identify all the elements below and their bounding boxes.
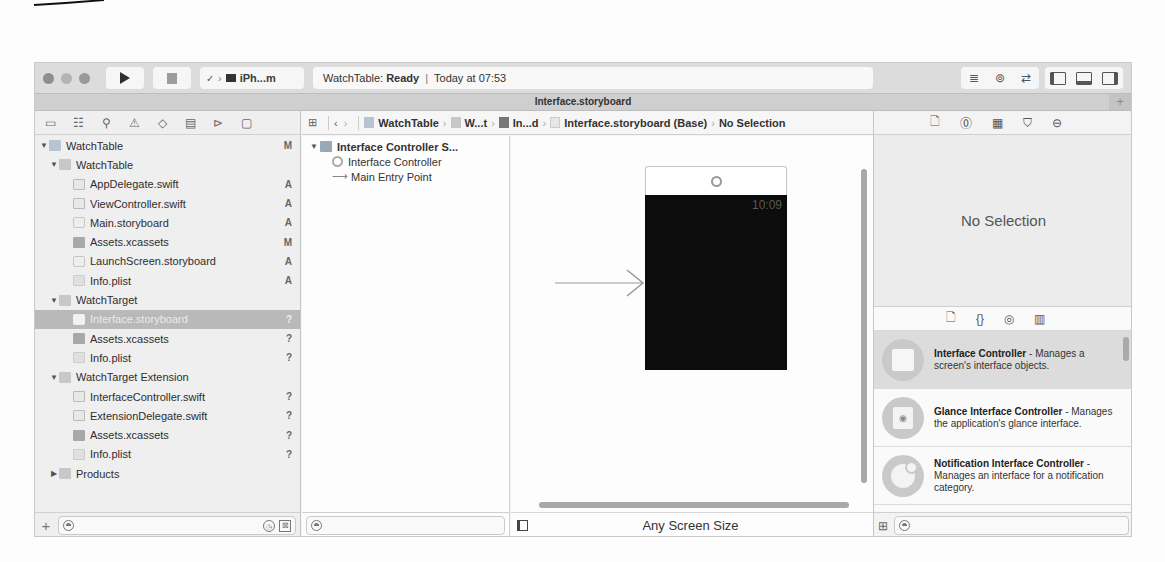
warning-icon[interactable]: ⚠: [127, 116, 141, 130]
minimize-window-button[interactable]: [61, 73, 72, 84]
version-editor-icon[interactable]: ⇄: [1017, 71, 1035, 85]
story-file-icon: [73, 314, 85, 325]
tree-item[interactable]: InterfaceController.swift?: [35, 387, 300, 406]
library-item-notification-interface-controller[interactable]: Notification Interface Controller - Mana…: [874, 447, 1132, 505]
tree-item[interactable]: ExtensionDelegate.swift?: [35, 406, 300, 425]
tree-item[interactable]: Main.storyboardA: [35, 213, 300, 232]
tree-item[interactable]: Assets.xcassetsM: [35, 232, 300, 251]
breakpoint-icon[interactable]: ⊳: [211, 116, 225, 130]
connections-icon[interactable]: ⊖: [1052, 116, 1062, 130]
file-template-icon[interactable]: 🗋: [946, 308, 956, 329]
folder-file-icon: [59, 372, 71, 383]
disclosure-triangle-icon[interactable]: ▼: [310, 142, 320, 151]
zoom-window-button[interactable]: [79, 73, 90, 84]
scm-status-badge: A: [285, 275, 292, 286]
run-button[interactable]: [106, 67, 144, 89]
page-pen-stroke: [34, 0, 104, 6]
entry-point-arrow[interactable]: [555, 267, 647, 299]
storyboard-canvas[interactable]: 10:09 Any Screen Size: [511, 136, 873, 537]
add-tab-button[interactable]: +: [1109, 94, 1131, 110]
back-button[interactable]: ‹: [334, 117, 338, 129]
library-item-glance-interface-controller[interactable]: ◉ Glance Interface Controller - Manages …: [874, 389, 1132, 447]
tree-item[interactable]: ▼WatchTarget Extension: [35, 368, 300, 387]
tree-item[interactable]: ViewController.swiftA: [35, 194, 300, 213]
tree-item[interactable]: Info.plist?: [35, 348, 300, 367]
test-icon[interactable]: ◇: [155, 116, 169, 130]
breadcrumb-project[interactable]: WatchTable: [364, 117, 439, 129]
file-icon[interactable]: 🗋: [930, 112, 940, 133]
related-items-icon[interactable]: ⊞: [308, 116, 317, 129]
outline-item-main-entry-point[interactable]: ⟶ Main Entry Point: [302, 169, 509, 184]
navigator-filter-input[interactable]: ◷ ⊠: [58, 516, 296, 535]
assets-file-icon: [73, 333, 85, 344]
code-snippet-icon[interactable]: {}: [976, 312, 984, 326]
search-icon[interactable]: ⚲: [99, 116, 113, 130]
add-file-button[interactable]: +: [39, 517, 53, 534]
disclosure-triangle-icon[interactable]: ▼: [39, 141, 49, 150]
vertical-scrollbar[interactable]: [861, 169, 867, 483]
chevron-right-icon: ›: [711, 117, 715, 129]
scheme-selector[interactable]: ✓ › iPh...m: [200, 67, 304, 89]
status-separator: |: [425, 72, 428, 84]
source-control-filter-icon[interactable]: ⊠: [279, 520, 291, 532]
tree-item[interactable]: LaunchScreen.storyboardA: [35, 252, 300, 271]
tab-interface-storyboard[interactable]: Interface.storyboard: [535, 96, 632, 107]
disclosure-triangle-icon[interactable]: ▼: [49, 373, 59, 382]
tree-item[interactable]: AppDelegate.swiftA: [35, 175, 300, 194]
tree-item-label: ViewController.swift: [90, 198, 186, 210]
swift-file-icon: [73, 410, 85, 421]
breadcrumb-selection[interactable]: No Selection: [719, 117, 786, 129]
library-item-interface-controller[interactable]: Interface Controller - Manages a screen'…: [874, 331, 1132, 389]
tree-item[interactable]: ▼WatchTableM: [35, 136, 300, 155]
folder-icon[interactable]: ▭: [43, 116, 57, 130]
tree-item[interactable]: Interface.storyboard?: [35, 310, 300, 329]
identity-icon[interactable]: ▦: [992, 116, 1003, 130]
size-class-button[interactable]: Any Screen Size: [528, 518, 873, 533]
recent-files-icon[interactable]: ◷: [263, 520, 275, 532]
tree-item-label: WatchTarget Extension: [76, 371, 189, 383]
object-icon[interactable]: ◎: [1004, 312, 1014, 326]
tree-item[interactable]: ▼WatchTarget: [35, 290, 300, 309]
toggle-utilities-button[interactable]: [1101, 71, 1119, 85]
outline-scene[interactable]: ▼ Interface Controller S...: [302, 139, 509, 154]
toggle-debug-button[interactable]: [1075, 71, 1093, 85]
toggle-outline-button[interactable]: [517, 520, 528, 531]
tree-item[interactable]: ▼WatchTable: [35, 155, 300, 174]
breadcrumb-group[interactable]: W...t: [451, 117, 488, 129]
grid-view-icon[interactable]: ⊞: [878, 519, 888, 533]
interface-controller-scene[interactable]: 10:09: [645, 166, 787, 370]
debug-icon[interactable]: ▤: [183, 116, 197, 130]
standard-editor-icon[interactable]: ≣: [965, 71, 983, 85]
inspector-selector-bar: 🗋 ⓪ ▦ ⛉ ⊖: [874, 111, 1132, 135]
breadcrumb-file[interactable]: In...d: [499, 117, 539, 129]
scene-dock[interactable]: [645, 166, 787, 195]
media-icon[interactable]: ▥: [1034, 312, 1045, 326]
disclosure-triangle-icon[interactable]: ▶: [49, 469, 59, 478]
watch-screen[interactable]: 10:09: [645, 195, 787, 370]
library-filter-input[interactable]: [894, 516, 1129, 535]
tree-item-label: Info.plist: [90, 275, 131, 287]
horizontal-scrollbar[interactable]: [539, 502, 849, 508]
toggle-navigator-button[interactable]: [1049, 71, 1067, 85]
tree-item[interactable]: Assets.xcassets?: [35, 425, 300, 444]
assistant-editor-icon[interactable]: ⊚: [991, 71, 1009, 85]
filter-icon: [899, 520, 910, 531]
stop-button[interactable]: [153, 67, 191, 89]
help-icon[interactable]: ⓪: [960, 114, 972, 131]
tree-item[interactable]: Assets.xcassets?: [35, 329, 300, 348]
attributes-icon[interactable]: ⛉: [1023, 116, 1032, 130]
library-scrollbar[interactable]: [1123, 337, 1129, 361]
outline-filter-input[interactable]: [306, 516, 505, 535]
hierarchy-icon[interactable]: ☷: [71, 116, 85, 130]
outline-item-interface-controller[interactable]: Interface Controller: [302, 154, 509, 169]
tree-item[interactable]: ▶Products: [35, 464, 300, 483]
disclosure-triangle-icon[interactable]: ▼: [49, 160, 59, 169]
close-window-button[interactable]: [43, 73, 54, 84]
tree-item[interactable]: Info.plistA: [35, 271, 300, 290]
report-icon[interactable]: ▢: [239, 116, 253, 130]
assets-file-icon: [73, 237, 85, 248]
disclosure-triangle-icon[interactable]: ▼: [49, 296, 59, 305]
forward-button[interactable]: ›: [344, 117, 348, 129]
breadcrumb-localization[interactable]: Interface.storyboard (Base): [550, 117, 707, 129]
tree-item[interactable]: Info.plist?: [35, 445, 300, 464]
